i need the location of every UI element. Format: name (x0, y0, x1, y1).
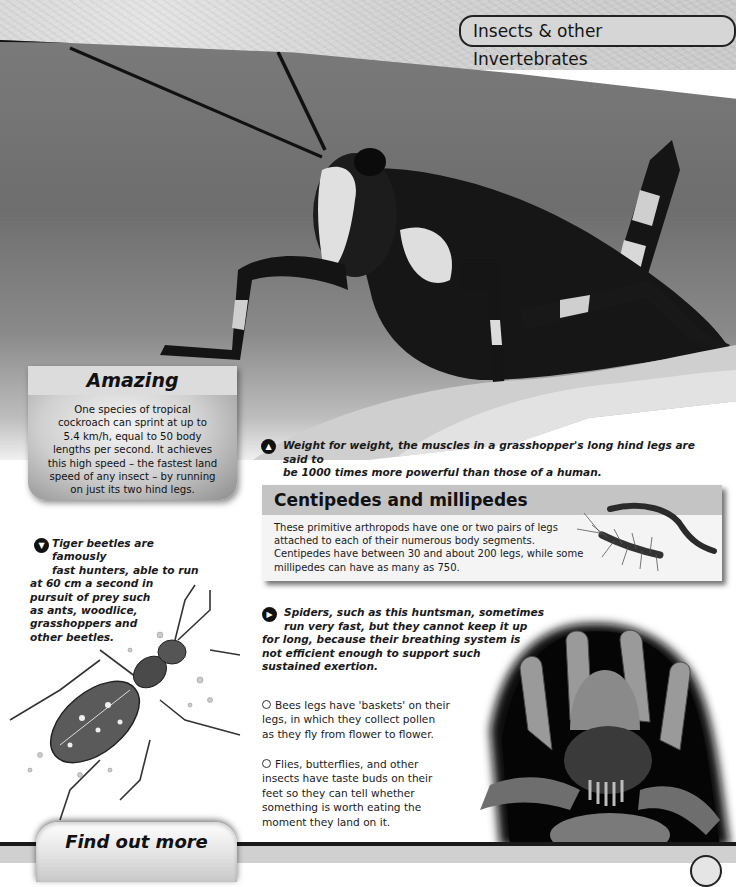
amazing-line: speed of any insect – by running (36, 470, 229, 483)
amazing-line: cockroach can sprint at up to (36, 416, 229, 429)
tiger-beetle-image (0, 560, 260, 820)
centipedes-line: Centipedes have between 30 and about 200… (274, 547, 574, 560)
centipedes-text: These primitive arthropods have one or t… (262, 515, 574, 574)
arrow-up-icon: ▲ (261, 439, 276, 454)
fact-flies: Flies, butterflies, and other insects ha… (262, 757, 482, 829)
fact-line: Flies, butterflies, and other (262, 757, 482, 771)
bullet-circle-icon (262, 700, 271, 709)
amazing-line: 5.4 km/h, equal to 50 body (36, 430, 229, 443)
fact-line: something is worth eating the (262, 800, 482, 814)
fact-line: feet so they can tell whether (262, 786, 482, 800)
bullet-circle-icon (262, 759, 271, 768)
section-title-tab: Insects & other Invertebrates (459, 15, 736, 47)
huntsman-spider-image (470, 610, 736, 846)
fact-line: as they fly from flower to flower. (262, 727, 482, 741)
amazing-line: One species of tropical (36, 403, 229, 416)
grasshopper-caption: ▲ Weight for weight, the muscles in a gr… (283, 439, 723, 480)
fact-bees: Bees legs have 'baskets' on their legs, … (262, 698, 482, 741)
centipede-millipede-image (562, 487, 722, 577)
fact-line: insects have taste buds on their (262, 771, 482, 785)
centipedes-line: These primitive arthropods have one or t… (274, 521, 574, 534)
centipedes-millipedes-box: Centipedes and millipedes These primitiv… (262, 485, 722, 581)
amazing-text: One species of tropical cockroach can sp… (28, 395, 237, 500)
caption-line: Weight for weight, the muscles in a gras… (283, 439, 723, 466)
amazing-line: lengths per second. It achieves (36, 443, 229, 456)
fact-line: legs, in which they collect pollen (262, 712, 482, 726)
caption-line: be 1000 times more powerful than those o… (283, 466, 723, 480)
arrow-down-icon: ▼ (34, 538, 49, 553)
amazing-title: Amazing (28, 366, 237, 395)
centipedes-line: millipedes can have as many as 750. (274, 561, 574, 574)
find-out-more-box[interactable]: Find out more (36, 822, 237, 882)
centipedes-line: attached to each of their numerous body … (274, 534, 574, 547)
fact-line: moment they land on it. (262, 815, 482, 829)
amazing-fact-box: Amazing One species of tropical cockroac… (28, 366, 237, 500)
arrow-right-icon: ▶ (262, 607, 277, 622)
amazing-line: on just its two hind legs. (36, 483, 229, 496)
amazing-line: this high speed – the fastest land (36, 457, 229, 470)
fact-line: Bees legs have 'baskets' on their (262, 698, 482, 712)
page-number-circle (690, 855, 722, 887)
